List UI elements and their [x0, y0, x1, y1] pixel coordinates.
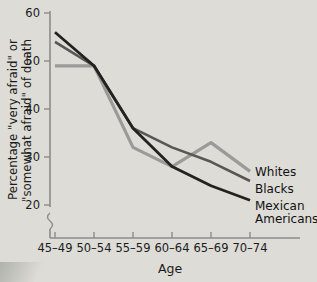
x-axis-title: Age: [158, 261, 182, 276]
x-tick-label-2: 55–59: [115, 241, 150, 255]
legend-label-mexican-americans-line1: Mexican: [255, 199, 305, 213]
y-axis-label-line1: Percentage "very afraid" or: [6, 39, 20, 200]
x-tick-label-1: 50–54: [76, 241, 111, 255]
y-tick-label-30: 30: [25, 150, 40, 164]
y-axis-break-icon: [48, 213, 53, 229]
y-tick-label-20: 20: [25, 198, 40, 212]
series-line-whites: [55, 66, 250, 172]
y-tick-label-40: 40: [25, 102, 40, 116]
series-line-mexican-americans: [55, 32, 250, 200]
series-line-blacks: [55, 42, 250, 181]
legend-label-mexican-americans-line2: Americans: [255, 212, 317, 226]
x-tick-label-4: 65–69: [193, 241, 228, 255]
legend-label-blacks: Blacks: [255, 182, 294, 196]
chart-legend: Whites Blacks Mexican Americans: [255, 165, 317, 226]
y-tick-label-60: 60: [25, 6, 40, 20]
x-tick-label-3: 60–64: [154, 241, 189, 255]
line-chart: Percentage "very afraid" or "somewhat af…: [0, 0, 317, 282]
x-tick-label-0: 45–49: [37, 241, 72, 255]
chart-figure: Percentage "very afraid" or "somewhat af…: [0, 0, 317, 282]
x-axis-ticks: 45–49 50–54 55–59 60–64 65–69 70–74: [37, 232, 267, 255]
y-tick-label-50: 50: [25, 54, 40, 68]
x-tick-label-5: 70–74: [232, 241, 267, 255]
legend-label-whites: Whites: [255, 165, 296, 179]
